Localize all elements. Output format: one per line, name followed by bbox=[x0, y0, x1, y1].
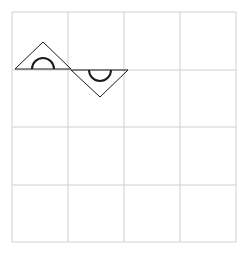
triangle-shape-up bbox=[15, 42, 71, 69]
semicircle-arc bbox=[32, 58, 54, 69]
semicircle-arc bbox=[89, 70, 111, 81]
grid bbox=[12, 12, 236, 242]
diagram-canvas bbox=[0, 0, 248, 254]
triangle-shape-down bbox=[71, 70, 128, 97]
triangle-outline bbox=[15, 42, 71, 69]
triangle-outline bbox=[71, 70, 128, 97]
shapes bbox=[15, 42, 128, 97]
